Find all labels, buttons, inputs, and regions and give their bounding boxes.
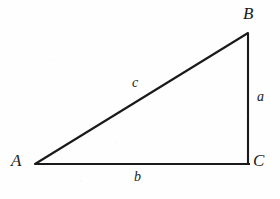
side-label-c: c [132,76,138,90]
vertex-label-a: A [11,152,21,169]
hypotenuse-line-c [35,33,248,164]
side-label-b: b [134,170,141,184]
vertex-label-c: C [253,152,264,169]
vertex-label-b: B [243,5,253,22]
triangle-diagram: A B C a b c [0,0,280,199]
side-label-a: a [257,90,264,104]
